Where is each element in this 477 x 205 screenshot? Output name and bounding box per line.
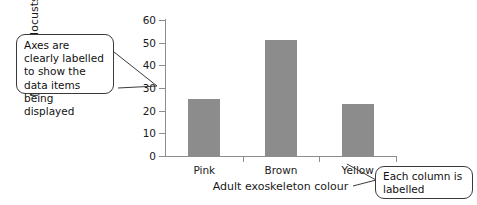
y-axis-tick-label-wrap: 60 bbox=[112, 15, 156, 25]
bar-yellow bbox=[342, 104, 374, 156]
x-axis-tick bbox=[319, 156, 320, 162]
y-axis-tick-label-wrap: 20 bbox=[112, 106, 156, 116]
x-axis-line bbox=[165, 156, 396, 157]
y-axis-tick bbox=[159, 111, 166, 112]
bar-series bbox=[166, 20, 396, 156]
y-axis-tick-label-wrap: 0 bbox=[112, 151, 156, 161]
y-axis-tick-label: 0 bbox=[116, 151, 156, 161]
bar-pink bbox=[188, 99, 220, 156]
callout-axes-label: Axes are clearly labelled to show the da… bbox=[16, 34, 114, 94]
y-axis-tick bbox=[159, 133, 166, 134]
y-axis-tick bbox=[159, 88, 166, 89]
y-axis-tick-label: 30 bbox=[116, 83, 156, 93]
x-axis-tick bbox=[243, 156, 244, 162]
x-axis-tick bbox=[396, 156, 397, 162]
y-axis-tick-label: 20 bbox=[116, 106, 156, 116]
y-axis-tick bbox=[159, 43, 166, 44]
x-axis-title: Adult exoskeleton colour bbox=[165, 180, 396, 193]
x-axis-category-label: Brown bbox=[241, 164, 321, 176]
y-axis-tick-label-wrap: 30 bbox=[112, 83, 156, 93]
chart-screenshot: 0102030405060 Number of locusts PinkBrow… bbox=[0, 0, 477, 205]
y-axis-tick bbox=[159, 65, 166, 66]
x-axis-category-label: Pink bbox=[164, 164, 244, 176]
y-axis-tick bbox=[159, 20, 166, 21]
y-axis-tick-label: 10 bbox=[116, 128, 156, 138]
y-axis-tick-label-wrap: 40 bbox=[112, 60, 156, 70]
bar-brown bbox=[265, 40, 297, 156]
y-axis-tick-label-wrap: 50 bbox=[112, 38, 156, 48]
y-axis-tick-label: 50 bbox=[116, 38, 156, 48]
y-axis-tick-label: 40 bbox=[116, 60, 156, 70]
y-axis-tick-label-wrap: 10 bbox=[112, 128, 156, 138]
callout-column-label: Each column is labelled bbox=[375, 166, 473, 199]
y-axis-tick bbox=[159, 156, 166, 157]
y-axis-tick-label: 60 bbox=[116, 15, 156, 25]
